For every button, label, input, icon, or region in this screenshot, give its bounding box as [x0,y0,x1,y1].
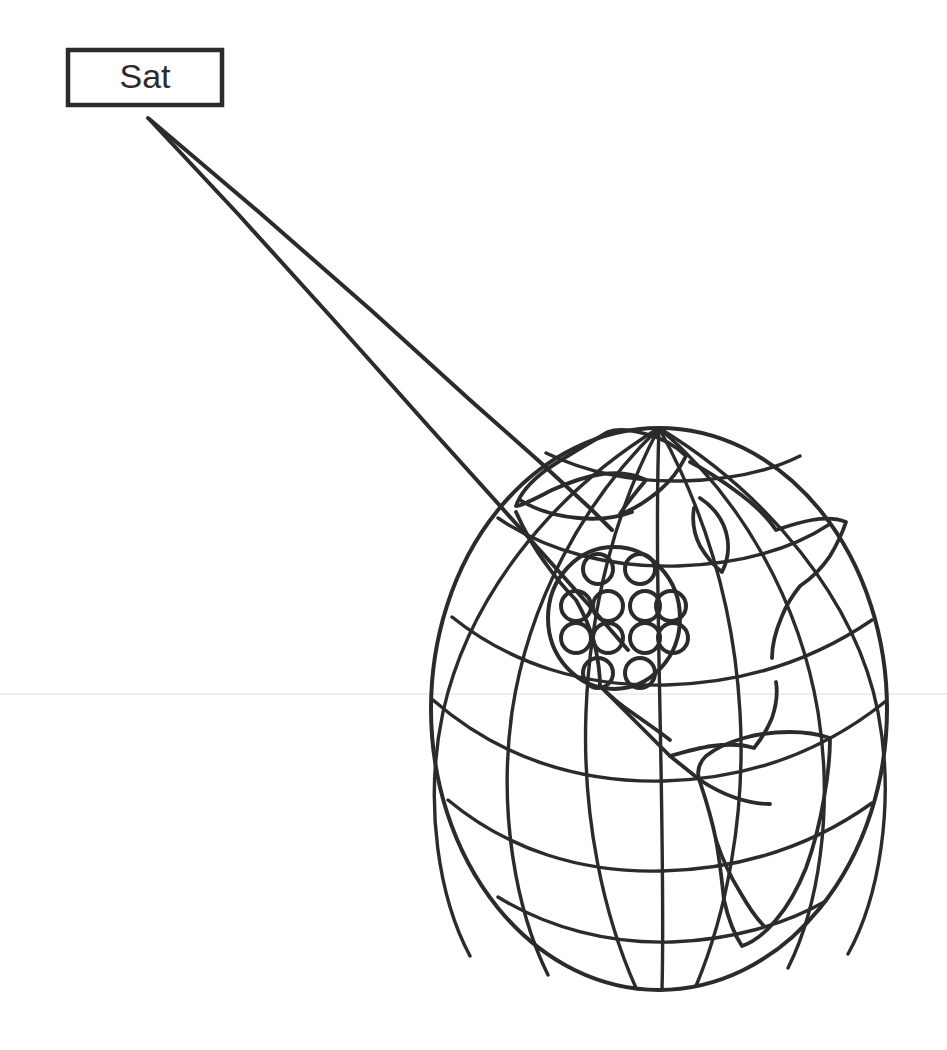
satellite-label-text: Sat [119,57,171,95]
page-background [0,0,947,1050]
satellite-coverage-diagram: Sat [0,0,947,1050]
satellite-label[interactable]: Sat [68,50,222,105]
